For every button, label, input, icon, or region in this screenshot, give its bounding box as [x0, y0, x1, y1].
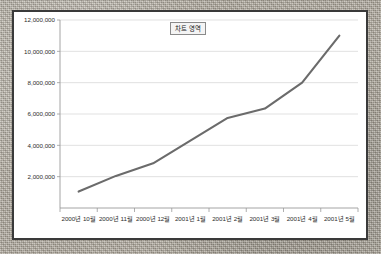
- x-axis-tick-labels: 2000년 10월2000년 11월2000년 12월2001년 1월2001년…: [61, 215, 354, 223]
- line-chart-svg: 2,000,0004,000,0006,000,0008,000,00010,0…: [14, 12, 366, 238]
- svg-text:2000년 10월: 2000년 10월: [61, 215, 95, 223]
- svg-text:2001년 4월: 2001년 4월: [287, 215, 318, 223]
- y-axis-tick-labels: 2,000,0004,000,0006,000,0008,000,00010,0…: [24, 16, 56, 180]
- svg-text:2001년 2월: 2001년 2월: [212, 215, 243, 223]
- svg-text:10,000,000: 10,000,000: [24, 48, 56, 55]
- plot-area: 2,000,0004,000,0006,000,0008,000,00010,0…: [14, 12, 366, 238]
- svg-text:2001년 1월: 2001년 1월: [175, 215, 206, 223]
- svg-text:2001년 5월: 2001년 5월: [324, 215, 355, 223]
- x-axis-ticks: [60, 208, 358, 212]
- svg-text:2,000,000: 2,000,000: [27, 173, 55, 180]
- gridlines-group: [57, 20, 358, 177]
- svg-text:2001년 3월: 2001년 3월: [249, 215, 280, 223]
- svg-text:2000년 12월: 2000년 12월: [136, 215, 170, 223]
- chart-frame[interactable]: 차트 영역 2,000,0004,000,0006,000,0008,000,0…: [12, 10, 368, 240]
- svg-text:12,000,000: 12,000,000: [24, 16, 56, 23]
- svg-text:4,000,000: 4,000,000: [27, 142, 55, 149]
- svg-text:6,000,000: 6,000,000: [27, 110, 55, 117]
- svg-text:8,000,000: 8,000,000: [27, 79, 55, 86]
- svg-text:2000년 11월: 2000년 11월: [99, 215, 133, 223]
